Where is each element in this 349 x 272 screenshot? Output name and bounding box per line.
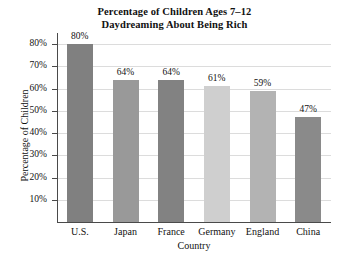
x-axis-title: Country: [57, 240, 331, 251]
bar: [204, 86, 230, 222]
chart-title: Percentage of Children Ages 7–12 Daydrea…: [0, 6, 349, 31]
y-tick-label: 20%: [13, 173, 47, 183]
x-tick-label: China: [278, 226, 338, 237]
bar: [250, 91, 276, 222]
bar: [295, 117, 321, 222]
x-axis-line: [57, 222, 331, 223]
bar: [67, 44, 93, 222]
y-tick-label: 60%: [13, 84, 47, 94]
y-tick-label: 80%: [13, 39, 47, 49]
y-tick-label: 10%: [13, 195, 47, 205]
bar: [158, 80, 184, 222]
bar-value-label: 47%: [286, 104, 330, 114]
bar-value-label: 59%: [241, 78, 285, 88]
bar: [113, 80, 139, 222]
bar-series: [57, 30, 331, 222]
chart-title-line-1: Percentage of Children Ages 7–12: [0, 6, 349, 19]
bar-value-label: 64%: [104, 67, 148, 77]
bar-value-label: 61%: [195, 73, 239, 83]
y-tick-label: 70%: [13, 61, 47, 71]
bar-chart: Percentage of Children Ages 7–12 Daydrea…: [0, 0, 349, 272]
y-tick-label: 50%: [13, 106, 47, 116]
y-tick-label: 40%: [13, 128, 47, 138]
bar-value-label: 64%: [149, 67, 193, 77]
bar-value-label: 80%: [58, 31, 102, 41]
y-tick-label: 30%: [13, 150, 47, 160]
